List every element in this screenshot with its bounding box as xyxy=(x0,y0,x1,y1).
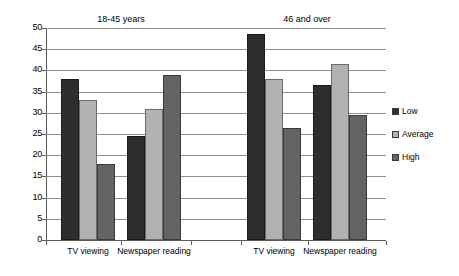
legend-label-average: Average xyxy=(402,130,434,139)
bar-low-3 xyxy=(313,85,331,240)
bar-average-1 xyxy=(145,109,163,240)
y-tick-label-15: 15 xyxy=(6,171,42,180)
y-axis-ticks: 50454035302520151050 xyxy=(0,28,42,240)
legend-label-low: Low xyxy=(402,107,418,116)
bars xyxy=(46,28,386,240)
y-tick-label-25: 25 xyxy=(6,129,42,138)
legend-swatch-icon-average xyxy=(392,131,399,138)
x-tick-label-3: Newspaper reading xyxy=(290,246,390,256)
y-tick-label-30: 30 xyxy=(6,108,42,117)
plot-area xyxy=(46,28,386,240)
group-title-young: 18-45 years xyxy=(71,14,171,24)
bar-average-0 xyxy=(79,100,97,240)
bar-low-0 xyxy=(61,79,79,240)
gridline-0 xyxy=(46,240,386,241)
y-tick-label-35: 35 xyxy=(6,87,42,96)
legend-swatch-icon-low xyxy=(392,108,399,115)
bar-high-1 xyxy=(163,75,181,240)
bar-high-2 xyxy=(283,128,301,240)
y-tick-label-5: 5 xyxy=(6,214,42,223)
x-tick-mark-2 xyxy=(191,241,192,245)
y-tick-label-50: 50 xyxy=(6,23,42,32)
legend-label-high: High xyxy=(402,153,419,162)
bar-low-1 xyxy=(127,136,145,240)
legend-item-high[interactable]: High xyxy=(392,152,456,162)
x-tick-mark-3 xyxy=(241,241,242,245)
chart-legend: LowAverageHigh xyxy=(392,106,456,175)
y-tick-label-0: 0 xyxy=(6,235,42,244)
legend-item-low[interactable]: Low xyxy=(392,106,456,116)
bar-average-2 xyxy=(265,79,283,240)
y-tick-label-10: 10 xyxy=(6,193,42,202)
bar-chart: 18-45 years 46 and over 5045403530252015… xyxy=(0,0,459,276)
x-tick-mark-4 xyxy=(308,241,309,245)
x-tick-mark-1 xyxy=(121,241,122,245)
y-tick-label-20: 20 xyxy=(6,150,42,159)
x-tick-mark-0 xyxy=(46,241,47,245)
x-tick-label-1: Newspaper reading xyxy=(104,246,204,256)
bar-high-3 xyxy=(349,115,367,240)
bar-low-2 xyxy=(247,34,265,240)
y-tick-label-45: 45 xyxy=(6,44,42,53)
group-title-older: 46 and over xyxy=(257,14,357,24)
legend-item-average[interactable]: Average xyxy=(392,129,456,139)
bar-average-3 xyxy=(331,64,349,240)
x-tick-mark-5 xyxy=(386,241,387,245)
legend-swatch-icon-high xyxy=(392,154,399,161)
bar-high-0 xyxy=(97,164,115,240)
y-tick-label-40: 40 xyxy=(6,65,42,74)
